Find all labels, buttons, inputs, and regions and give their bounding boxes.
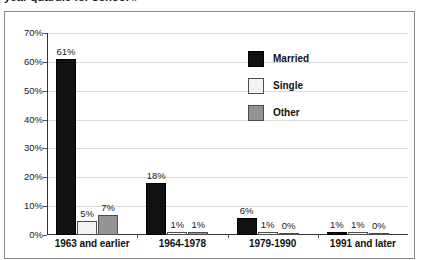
bar-value-label: 1% <box>170 220 184 230</box>
y-axis-label: 30% <box>7 144 43 154</box>
x-axis-tick <box>137 234 138 238</box>
legend-swatch-other-icon <box>248 105 264 121</box>
y-axis-label: 70% <box>7 28 43 38</box>
legend-label: Married <box>273 54 309 64</box>
y-axis-label: 40% <box>7 115 43 125</box>
legend-swatch-married-icon <box>248 51 264 67</box>
bar-value-label: 1% <box>261 220 275 230</box>
bar-married-2[interactable] <box>146 183 166 235</box>
bar-married-4[interactable] <box>327 232 347 235</box>
bar-single-4[interactable] <box>348 232 368 235</box>
chart-figure-frame: 70%60%50%40%30%20%10%0% 61%5%7%18%1%1%6%… <box>4 11 415 259</box>
bar-value-label: 6% <box>240 206 254 216</box>
x-axis-label-4: 1991 and later <box>330 238 396 249</box>
y-axis-label: 10% <box>7 201 43 211</box>
bar-single-3[interactable] <box>258 232 278 235</box>
bar-value-label: 0% <box>372 221 386 231</box>
x-axis-tick <box>318 234 319 238</box>
legend-item-single[interactable]: Single <box>248 75 340 97</box>
legend-item-other[interactable]: Other <box>248 102 340 124</box>
figure-caption-strip: year quartile for school # <box>0 0 425 9</box>
plot-area: 61%5%7%18%1%1%6%1%0%1%1%0% <box>47 33 408 235</box>
x-axis-label-1: 1963 and earlier <box>55 238 130 249</box>
chart-legend: MarriedSingleOther <box>248 48 340 129</box>
y-axis-label: 60% <box>7 57 43 67</box>
bar-other-4[interactable] <box>369 233 389 235</box>
figure-caption: year quartile for school # <box>4 0 138 3</box>
legend-item-married[interactable]: Married <box>248 48 340 70</box>
bar-value-label: 0% <box>282 221 296 231</box>
bar-value-label: 18% <box>147 171 166 181</box>
legend-swatch-single-icon <box>248 78 264 94</box>
bar-value-label: 61% <box>56 47 75 57</box>
bar-single-1[interactable] <box>77 221 97 235</box>
y-axis-tick-labels: 70%60%50%40%30%20%10%0% <box>5 33 43 235</box>
bar-single-2[interactable] <box>167 232 187 235</box>
y-axis-label: 50% <box>7 86 43 96</box>
x-axis-label-2: 1964-1978 <box>159 238 206 249</box>
bar-value-label: 5% <box>80 209 94 219</box>
y-axis-tick <box>43 235 47 236</box>
x-axis-tick <box>228 234 229 238</box>
legend-label: Single <box>273 81 303 91</box>
x-axis-tick-labels: 1963 and earlier1964-19781979-19901991 a… <box>47 238 408 254</box>
bar-other-3[interactable] <box>279 233 299 235</box>
bar-married-1[interactable] <box>56 59 76 235</box>
y-axis-label: 20% <box>7 173 43 183</box>
x-axis-label-3: 1979-1990 <box>249 238 296 249</box>
y-axis-label: 0% <box>7 230 43 240</box>
bar-value-label: 1% <box>351 220 365 230</box>
bar-other-1[interactable] <box>98 215 118 235</box>
bar-value-label: 1% <box>330 220 344 230</box>
bar-value-label: 1% <box>191 220 205 230</box>
legend-label: Other <box>273 108 300 118</box>
bar-value-label: 7% <box>101 203 115 213</box>
bar-other-2[interactable] <box>188 232 208 235</box>
bar-married-3[interactable] <box>237 218 257 235</box>
